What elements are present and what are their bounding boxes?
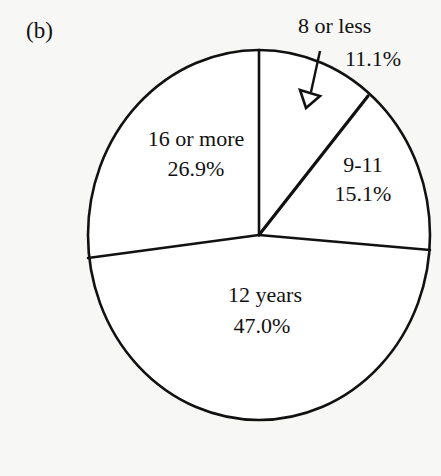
slice-value-16-or-more: 26.9%	[168, 156, 225, 181]
slice-value-9-11: 15.1%	[335, 181, 392, 206]
slice-value-8-or-less: 11.1%	[345, 46, 401, 71]
slice-label-16-or-more: 16 or more	[148, 126, 245, 151]
slice-label-12-years: 12 years	[228, 282, 302, 307]
pie-chart: (b) 8 or less 11.1% 9-11 15.1% 16 or mor…	[0, 0, 441, 476]
slice-label-9-11: 9-11	[343, 152, 383, 177]
panel-label: (b)	[26, 18, 53, 43]
slice-label-8-or-less: 8 or less	[298, 13, 371, 38]
slice-value-12-years: 47.0%	[234, 313, 291, 338]
